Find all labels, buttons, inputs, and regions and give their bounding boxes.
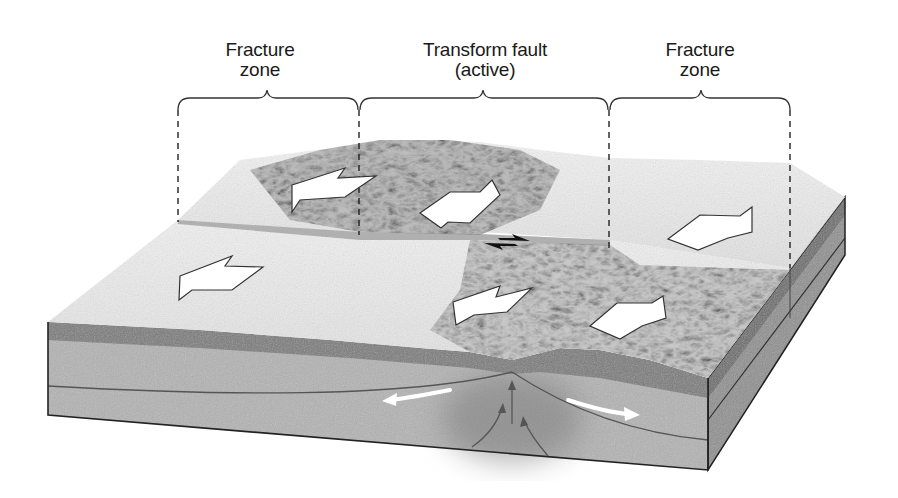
zone-brackets (178, 90, 790, 110)
left-fracture-zone-bracket (178, 90, 358, 110)
right-fracture-zone-bracket (610, 90, 790, 110)
transform-fault-block-diagram (0, 0, 898, 498)
transform-fault-bracket (360, 90, 608, 110)
